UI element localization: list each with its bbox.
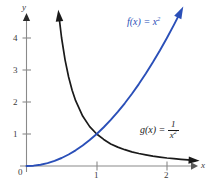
y-tick-label-2: 2 bbox=[13, 98, 18, 107]
f-function-label: f(x) = x2 bbox=[127, 17, 160, 27]
g-denominator-exponent: 2 bbox=[174, 129, 177, 135]
g-function-label: g(x) = 1 x2 bbox=[140, 121, 179, 141]
g-function-arg: (x) = bbox=[145, 124, 168, 135]
f-expression-exponent: 2 bbox=[157, 15, 160, 22]
x-axis-arrowhead bbox=[191, 162, 198, 170]
f-function-arg: (x) = bbox=[130, 16, 153, 27]
curve-f-of-x bbox=[27, 6, 184, 166]
x-axis-label: x bbox=[201, 161, 205, 170]
g-curve-right-arrowhead bbox=[188, 157, 199, 164]
f-curve-top-arrowhead bbox=[174, 6, 183, 19]
y-tick-label-4: 4 bbox=[13, 34, 18, 43]
plot-canvas bbox=[0, 0, 213, 183]
y-tick-label-1: 1 bbox=[13, 130, 18, 139]
g-fraction: 1 x2 bbox=[168, 120, 179, 140]
y-axis-label: y bbox=[22, 3, 26, 12]
x-tick-label-2: 2 bbox=[164, 171, 169, 180]
function-graph-figure: y x 0 1 2 1 2 3 4 f(x) = x2 g(x) = 1 x2 bbox=[0, 0, 213, 183]
g-fraction-denominator: x2 bbox=[168, 131, 179, 140]
g-curve-top-arrowhead bbox=[56, 10, 64, 22]
origin-tick-label: 0 bbox=[18, 168, 23, 177]
y-axis-arrowhead bbox=[23, 13, 30, 21]
y-tick-label-3: 3 bbox=[13, 66, 18, 75]
x-tick-label-1: 1 bbox=[94, 171, 99, 180]
g-fraction-numerator: 1 bbox=[168, 120, 179, 129]
